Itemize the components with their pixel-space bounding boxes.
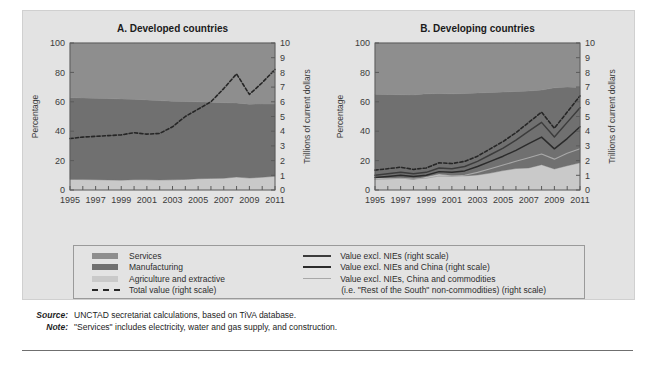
x-axis-tick-label: 2003 xyxy=(467,195,487,205)
y-axis-tick-label: 60 xyxy=(360,97,370,107)
figure-root: 0204060801000123456789101995199719992001… xyxy=(0,0,655,365)
x-axis-tick-label: 1997 xyxy=(86,195,106,205)
x-axis-tick-label: 2003 xyxy=(162,195,182,205)
y2-axis-tick-label: 9 xyxy=(280,53,285,63)
legend-label-agriculture: Agriculture and extractive xyxy=(129,274,225,284)
note-note: Note: "Services" includes electricity, w… xyxy=(22,322,633,332)
y-axis-title: Percentage xyxy=(30,94,40,138)
legend-item-excl-nies-china: Value excl. NIEs and China (right scale) xyxy=(303,262,584,274)
y2-axis-tick-label: 4 xyxy=(280,126,285,136)
y2-axis-tick-label: 7 xyxy=(585,82,590,92)
y2-axis-tick-label: 2 xyxy=(585,156,590,166)
panel-title: B. Developing countries xyxy=(420,23,535,34)
x-axis-tick-label: 2011 xyxy=(570,195,589,205)
legend-label-services: Services xyxy=(129,251,162,261)
legend-label-manufacturing: Manufacturing xyxy=(129,262,183,272)
y2-axis-tick-label: 3 xyxy=(585,141,590,151)
note-source-key: Source: xyxy=(22,310,68,320)
y2-axis-tick-label: 4 xyxy=(585,126,590,136)
x-axis-tick-label: 1999 xyxy=(111,195,131,205)
legend-column-right: Value excl. NIEs (right scale) Value exc… xyxy=(303,250,584,298)
legend-swatch-manufacturing xyxy=(92,262,122,273)
chart-svg-a: 0204060801000123456789101995199719992001… xyxy=(22,10,327,235)
y2-axis-tick-label: 2 xyxy=(280,156,285,166)
y2-axis-title: Trillions of current dollars xyxy=(302,69,312,164)
legend-item-excl-nies-china-commodities: Value excl. NIEs, China and commodities xyxy=(303,273,584,285)
x-axis-tick-label: 2005 xyxy=(188,195,208,205)
y-axis-tick-label: 20 xyxy=(55,156,65,166)
legend-swatch-total-value xyxy=(92,285,122,296)
charts-row: 0204060801000123456789101995199719992001… xyxy=(22,10,633,235)
y2-axis-tick-label: 1 xyxy=(585,171,590,181)
y-axis-tick-label: 0 xyxy=(365,185,370,195)
panel-title: A. Developed countries xyxy=(117,23,229,34)
y-axis-tick-label: 40 xyxy=(360,126,370,136)
y-axis-tick-label: 20 xyxy=(360,156,370,166)
figure-notes: Source: UNCTAD secretariat calculations,… xyxy=(22,310,633,334)
legend-swatch-excl-nies-china xyxy=(303,262,333,273)
legend-item-total-value: Total value (right scale) xyxy=(92,285,303,297)
legend-swatch-excl-nies-china-commodities xyxy=(303,273,333,284)
y2-axis-tick-label: 5 xyxy=(585,112,590,122)
y2-axis-title: Trillions of current dollars xyxy=(607,69,617,164)
y2-axis-tick-label: 1 xyxy=(280,171,285,181)
legend-swatch-services xyxy=(92,250,122,261)
legend-column-left: Services Manufacturing Agriculture and e… xyxy=(92,250,303,298)
y-axis-tick-label: 100 xyxy=(355,38,370,48)
legend-item-manufacturing: Manufacturing xyxy=(92,262,303,274)
legend-swatch-excl-nies xyxy=(303,250,333,261)
x-axis-tick-label: 2009 xyxy=(239,195,259,205)
legend-item-services: Services xyxy=(92,250,303,262)
legend-item-commodities-note: (i.e. "Rest of the South" non-commoditie… xyxy=(303,285,584,297)
legend-swatch-agriculture xyxy=(92,273,122,284)
x-axis-tick-label: 2001 xyxy=(442,195,462,205)
y2-axis-tick-label: 0 xyxy=(585,185,590,195)
legend-item-excl-nies: Value excl. NIEs (right scale) xyxy=(303,250,584,262)
y2-axis-tick-label: 6 xyxy=(585,97,590,107)
area-manufacturing xyxy=(70,98,275,180)
bottom-divider xyxy=(22,350,633,351)
x-axis-tick-label: 1995 xyxy=(60,195,80,205)
legend-label-commodities-note: (i.e. "Rest of the South" non-commoditie… xyxy=(341,285,546,295)
y2-axis-tick-label: 9 xyxy=(585,53,590,63)
y2-axis-tick-label: 10 xyxy=(585,38,595,48)
legend-label-excl-nies-china: Value excl. NIEs and China (right scale) xyxy=(340,262,490,272)
note-source-text: UNCTAD secretariat calculations, based o… xyxy=(74,310,296,320)
note-source: Source: UNCTAD secretariat calculations,… xyxy=(22,310,633,320)
chart-svg-b: 0204060801000123456789101995199719992001… xyxy=(327,10,632,235)
y-axis-tick-label: 80 xyxy=(55,68,65,78)
chart-panel-a: 0204060801000123456789101995199719992001… xyxy=(22,10,327,235)
x-axis-tick-label: 2001 xyxy=(137,195,157,205)
y2-axis-tick-label: 10 xyxy=(280,38,290,48)
y2-axis-tick-label: 5 xyxy=(280,112,285,122)
legend-label-total-value: Total value (right scale) xyxy=(129,285,216,295)
x-axis-tick-label: 1999 xyxy=(416,195,436,205)
area-manufacturing xyxy=(375,87,580,179)
y-axis-tick-label: 100 xyxy=(50,38,65,48)
note-note-key: Note: xyxy=(22,322,68,332)
y2-axis-tick-label: 7 xyxy=(280,82,285,92)
x-axis-tick-label: 1995 xyxy=(365,195,385,205)
chart-panel-b: 0204060801000123456789101995199719992001… xyxy=(327,10,632,235)
area-services xyxy=(70,43,275,104)
y2-axis-tick-label: 8 xyxy=(280,68,285,78)
legend-label-excl-nies-china-commodities: Value excl. NIEs, China and commodities xyxy=(340,274,495,284)
y-axis-tick-label: 40 xyxy=(55,126,65,136)
y2-axis-tick-label: 0 xyxy=(280,185,285,195)
x-axis-tick-label: 2009 xyxy=(544,195,564,205)
x-axis-tick-label: 2007 xyxy=(519,195,539,205)
chart-legend: Services Manufacturing Agriculture and e… xyxy=(73,245,585,299)
y2-axis-tick-label: 3 xyxy=(280,141,285,151)
y2-axis-tick-label: 8 xyxy=(585,68,590,78)
y-axis-title: Percentage xyxy=(335,94,345,138)
x-axis-tick-label: 2007 xyxy=(214,195,234,205)
y-axis-tick-label: 80 xyxy=(360,68,370,78)
y-axis-tick-label: 0 xyxy=(60,185,65,195)
area-services xyxy=(375,43,580,95)
y-axis-tick-label: 60 xyxy=(55,97,65,107)
legend-label-excl-nies: Value excl. NIEs (right scale) xyxy=(340,251,449,261)
x-axis-tick-label: 2005 xyxy=(493,195,513,205)
legend-item-agriculture: Agriculture and extractive xyxy=(92,273,303,285)
x-axis-tick-label: 1997 xyxy=(391,195,411,205)
y2-axis-tick-label: 6 xyxy=(280,97,285,107)
